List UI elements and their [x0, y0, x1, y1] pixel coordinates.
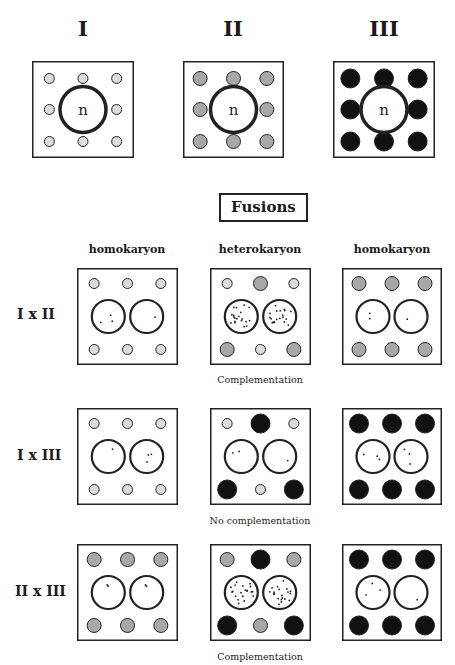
chromatin-dot — [236, 307, 238, 309]
parent-label-II: II — [193, 16, 273, 41]
mitochondrion-type-I — [156, 484, 166, 494]
chromatin-dot — [369, 312, 371, 314]
chromatin-dot — [235, 595, 237, 597]
mitochondrion-type-II — [227, 135, 241, 149]
chromatin-dot — [416, 599, 418, 601]
mitochondrion-type-I — [156, 279, 166, 289]
chromatin-dot — [277, 598, 279, 600]
mitochondrion-type-I — [89, 344, 99, 354]
nucleus — [92, 440, 125, 473]
chromatin-dot — [238, 315, 240, 317]
chromatin-dot — [249, 583, 251, 585]
mitochondrion-type-II — [154, 618, 168, 632]
mitochondrion-type-II — [260, 71, 274, 85]
chromatin-dot — [272, 322, 274, 324]
chromatin-dot — [281, 595, 283, 597]
mitochondrion-type-III — [408, 100, 427, 119]
chromatin-dot — [378, 459, 380, 461]
mitochondrion-type-III — [251, 414, 270, 433]
chromatin-dot — [282, 314, 284, 316]
nucleus — [92, 576, 125, 609]
mitochondrion-type-II — [87, 553, 101, 567]
chromatin-dot — [243, 600, 245, 602]
mitochondrion-type-III — [416, 480, 435, 499]
column-header-homokaryon-left: homokaryon — [72, 243, 182, 256]
mitochondrion-type-II — [220, 342, 234, 356]
mitochondrion-type-III — [218, 616, 237, 635]
mitochondrion-type-III — [350, 550, 369, 569]
nucleus-label: n — [379, 101, 389, 119]
chromatin-dot — [273, 593, 275, 595]
mitochondrion-type-III — [251, 550, 270, 569]
mitochondrion-type-II — [87, 618, 101, 632]
chromatin-dot — [241, 318, 243, 320]
chromatin-dot — [287, 460, 289, 462]
caption-I-x-II: Complementation — [180, 374, 340, 385]
chromatin-dot — [145, 584, 147, 586]
mitochondrion-type-I — [123, 279, 133, 289]
mitochondrion-type-I — [222, 419, 232, 429]
chromatin-dot — [365, 594, 367, 596]
mitochondrion-type-II — [352, 277, 366, 291]
chromatin-dot — [245, 321, 247, 323]
chromatin-dot — [154, 316, 156, 318]
chromatin-dot — [376, 455, 378, 457]
chromatin-dot — [238, 603, 240, 605]
chromatin-dot — [112, 448, 114, 450]
chromatin-dot — [278, 604, 280, 606]
mitochondrion-type-I — [256, 484, 266, 494]
nucleus — [92, 300, 125, 333]
fusion-cell-I-x-II-heterokaryon — [210, 268, 311, 365]
chromatin-dot — [276, 318, 278, 320]
chromatin-dot — [231, 314, 233, 316]
chromatin-dot — [363, 454, 365, 456]
mitochondrion-type-III — [284, 616, 303, 635]
nucleus — [357, 440, 390, 473]
mitochondrion-type-II — [193, 103, 207, 117]
mitochondrion-type-III — [416, 550, 435, 569]
chromatin-dot — [147, 454, 149, 456]
nucleus — [395, 300, 428, 333]
mitochondrion-type-I — [289, 279, 299, 289]
mitochondrion-type-III — [416, 414, 435, 433]
chromatin-dot — [281, 597, 283, 599]
chromatin-dot — [242, 585, 244, 587]
nucleus-label: n — [78, 101, 88, 119]
mitochondrion-type-III — [218, 480, 237, 499]
parent-label-I: I — [43, 16, 123, 41]
chromatin-dot — [273, 591, 275, 593]
mitochondrion-type-I — [289, 419, 299, 429]
chromatin-dot — [282, 316, 284, 318]
mitochondrion-type-II — [227, 71, 241, 85]
mitochondrion-type-III — [408, 132, 427, 151]
nucleus — [225, 440, 258, 473]
chromatin-dot — [250, 586, 252, 588]
parent-cell-II: n — [183, 61, 284, 158]
chromatin-dot — [233, 306, 235, 308]
chromatin-dot — [371, 583, 373, 585]
mitochondrion-type-II — [385, 342, 399, 356]
chromatin-dot — [151, 453, 153, 455]
mitochondrion-type-I — [123, 344, 133, 354]
mitochondrion-type-III — [350, 414, 369, 433]
mitochondrion-type-II — [254, 618, 268, 632]
chromatin-dot — [241, 320, 243, 322]
chromatin-dot — [283, 321, 285, 323]
fusion-cell-II-x-III-homokaryon-left — [77, 544, 178, 641]
column-header-heterokaryon: heterokaryon — [205, 243, 315, 256]
mitochondrion-type-III — [383, 414, 402, 433]
mitochondrion-type-I — [222, 279, 232, 289]
nucleus — [263, 440, 296, 473]
mitochondrion-type-I — [44, 73, 54, 83]
mitochondrion-type-II — [254, 277, 268, 291]
chromatin-dot — [231, 591, 233, 593]
chromatin-dot — [248, 306, 250, 308]
mitochondrion-type-I — [112, 105, 122, 115]
chromatin-dot — [244, 589, 246, 591]
mitochondrion-type-I — [78, 73, 88, 83]
mitochondrion-type-III — [350, 616, 369, 635]
chromatin-dot — [232, 452, 234, 454]
chromatin-dot — [234, 322, 236, 324]
chromatin-dot — [290, 310, 292, 312]
chromatin-dot — [233, 315, 235, 317]
